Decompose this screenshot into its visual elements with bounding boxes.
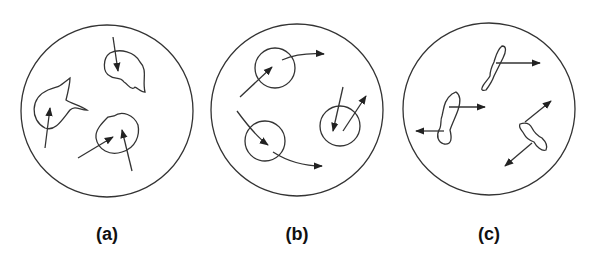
panel-label-c: (c) xyxy=(478,224,500,245)
particle-c3 xyxy=(519,123,546,150)
blob-2 xyxy=(104,51,145,92)
blob-1 xyxy=(34,78,87,129)
particle-c1 xyxy=(482,46,506,90)
particle-b1 xyxy=(255,48,295,88)
outer-circle-c xyxy=(403,23,575,195)
panel-label-b: (b) xyxy=(286,224,309,245)
panel-a xyxy=(21,25,193,197)
particle-b3 xyxy=(320,106,360,146)
outer-circle-a xyxy=(21,25,193,197)
panel-c xyxy=(403,23,575,195)
particle-c2 xyxy=(438,92,460,144)
blob-3 xyxy=(96,113,139,153)
panel-b xyxy=(211,24,383,196)
panel-label-a: (a) xyxy=(96,224,118,245)
